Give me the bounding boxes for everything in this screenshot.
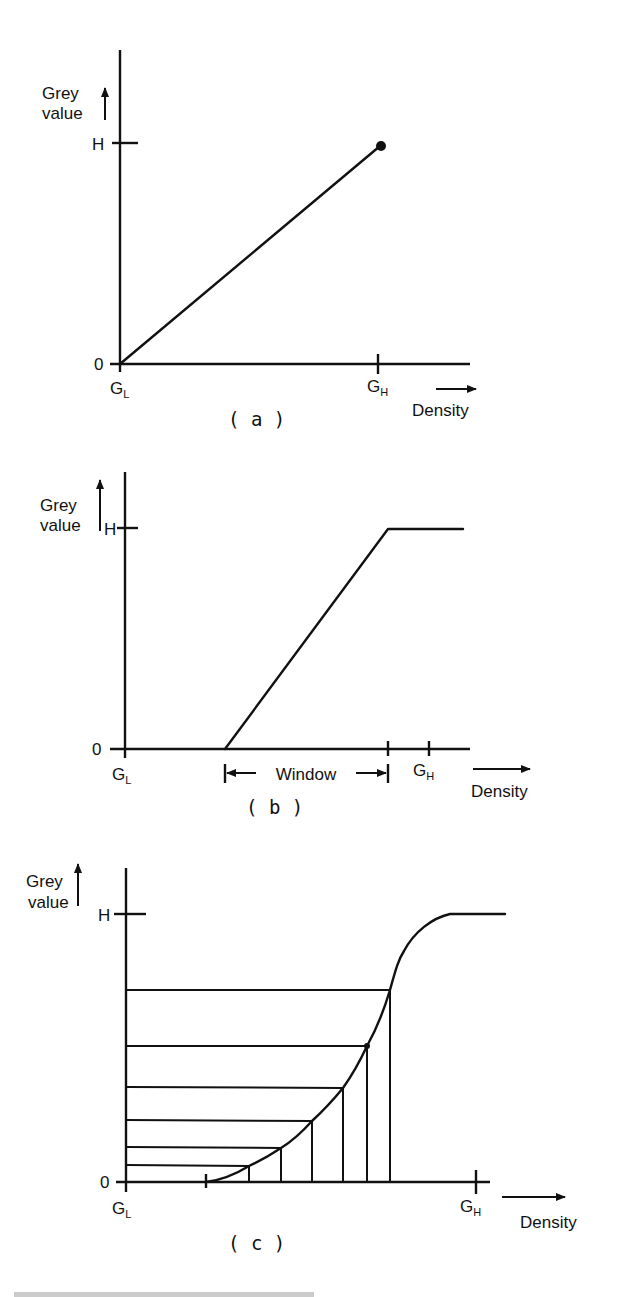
x-axis-label: Density	[471, 782, 528, 801]
x-tick-label-gl: GL	[112, 1199, 131, 1220]
clipped-caption-remnant	[14, 1292, 314, 1297]
y-axis-label-line2: value	[40, 516, 81, 535]
y-axis-label-line1: Grey	[42, 84, 79, 103]
mapping-line	[120, 146, 380, 364]
x-tick-label-gh: GH	[367, 377, 388, 398]
y-axis-label-line1: Grey	[26, 872, 63, 891]
density-drop-lines	[249, 990, 390, 1182]
y-tick-label-h: H	[104, 520, 116, 539]
y-axis-label-line2: value	[42, 104, 83, 123]
x-tick-label-gh: GH	[460, 1197, 481, 1218]
window-label: Window	[276, 765, 337, 784]
x-axis-label: Density	[520, 1213, 577, 1232]
y-tick-label-0: 0	[100, 1173, 109, 1192]
y-tick-label-h: H	[92, 135, 104, 154]
y-tick-label-0: 0	[92, 740, 101, 759]
mapping-line	[225, 529, 463, 749]
panel-caption: ( b )	[246, 796, 303, 818]
panel-caption: ( c )	[228, 1232, 285, 1254]
panel-caption: ( a )	[228, 408, 285, 430]
x-tick-label-gl: GL	[112, 765, 131, 786]
x-axis-label: Density	[412, 401, 469, 420]
x-tick-label-gl: GL	[110, 379, 129, 400]
endpoint-dot	[376, 141, 386, 151]
panel-b: Grey value H 0 GL GH Density Window ( b …	[40, 472, 530, 818]
y-tick-label-0: 0	[94, 355, 103, 374]
figure-canvas: Grey value H 0 GL GH Density ( a ) Grey …	[0, 0, 620, 1297]
x-tick-label-gh: GH	[413, 761, 434, 782]
transfer-curve	[206, 914, 505, 1182]
y-tick-label-h: H	[98, 906, 110, 925]
panel-c: Grey value H 0 GL GH Density	[26, 864, 577, 1254]
panel-a: Grey value H 0 GL GH Density ( a )	[42, 50, 476, 430]
level-point	[364, 1043, 370, 1049]
window-bracket: Window	[225, 764, 388, 784]
y-axis-label-line1: Grey	[40, 496, 77, 515]
y-axis-label-line2: value	[28, 893, 69, 912]
